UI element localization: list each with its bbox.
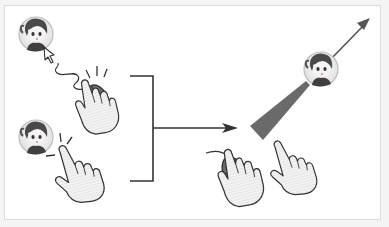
- character-avatar-icon: [304, 52, 338, 86]
- direction-arrow-head-icon: [357, 18, 370, 30]
- hand-on-mouse-icon: [218, 149, 263, 206]
- pointing-hand-icon: [56, 146, 105, 203]
- pointing-hand-icon: [271, 141, 317, 195]
- click-lines-icon: [86, 66, 107, 78]
- aim-cone-icon: [250, 81, 310, 140]
- character-avatar-icon: [19, 17, 53, 51]
- right-effect-group: [250, 18, 370, 140]
- cursor-arrow-icon: [44, 47, 54, 63]
- right-inputs-group: [206, 141, 317, 207]
- hand-on-mouse-icon: [76, 80, 119, 134]
- left-top-group: [19, 17, 119, 134]
- bracket-connector: [130, 76, 228, 181]
- character-avatar-icon: [19, 120, 53, 154]
- direction-arrow-line: [330, 24, 365, 60]
- diagram-canvas: [0, 0, 389, 227]
